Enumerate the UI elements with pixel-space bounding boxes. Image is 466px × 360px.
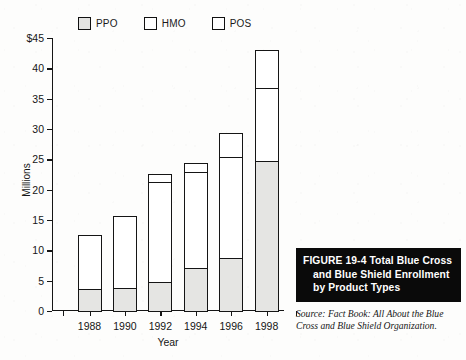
- y-tick-mark: [47, 99, 52, 100]
- x-tick-mark: [267, 311, 268, 316]
- figure-chart: PPOHMOPOS Millions 0510152025303540$45 1…: [0, 0, 300, 360]
- legend-label: HMO: [162, 18, 186, 29]
- bar-segment-ppo-1994: [184, 268, 208, 313]
- legend-label: POS: [230, 18, 252, 29]
- bar-1994[interactable]: [184, 163, 208, 311]
- bar-segment-hmo-1996: [219, 157, 243, 260]
- bar-segment-hmo-1992: [148, 182, 172, 283]
- y-tick-label: 25: [32, 153, 44, 165]
- y-tick-mark: [47, 250, 52, 251]
- y-tick-mark: [47, 159, 52, 160]
- bar-1988[interactable]: [78, 235, 102, 311]
- y-tick-label: 10: [32, 244, 44, 256]
- bar-segment-hmo-1988: [78, 235, 102, 290]
- x-tick-mark: [231, 311, 232, 316]
- plot-area: 0510152025303540$45 19881990199219941996…: [52, 38, 284, 311]
- y-tick-mark: [47, 220, 52, 221]
- x-tick-mark: [90, 311, 91, 316]
- bar-segment-ppo-1992: [148, 282, 172, 312]
- x-tick-mark: [196, 311, 197, 316]
- y-tick-mark: [47, 281, 52, 282]
- y-tick-label: 40: [32, 62, 44, 74]
- y-tick-label: 35: [32, 93, 44, 105]
- x-tick-mark-start: [63, 311, 64, 316]
- figure-caption-text: FIGURE 19-4 Total Blue Cross and Blue Sh…: [303, 254, 454, 295]
- bar-segment-hmo-1994: [184, 172, 208, 268]
- y-tick-mark: [47, 311, 52, 312]
- caption-line-2: and Blue Shield Enrollment: [303, 268, 454, 282]
- legend-swatch-hmo-icon: [144, 17, 157, 30]
- x-tick-mark: [160, 311, 161, 316]
- y-tick-label: 0: [38, 305, 44, 317]
- y-tick-label: $45: [26, 32, 44, 44]
- bar-segment-pos-1996: [219, 133, 243, 158]
- x-tick-label: 1992: [149, 320, 172, 332]
- y-tick-mark: [47, 38, 52, 39]
- bar-segment-ppo-1998: [255, 161, 279, 313]
- legend-swatch-pos-icon: [212, 17, 225, 30]
- page-background: PPOHMOPOS Millions 0510152025303540$45 1…: [0, 0, 466, 360]
- legend-item-ppo[interactable]: PPO: [78, 17, 118, 30]
- x-tick-mark: [125, 311, 126, 316]
- x-tick-label: 1998: [255, 320, 278, 332]
- y-axis-line: [52, 38, 53, 311]
- bar-1996[interactable]: [219, 133, 243, 311]
- caption-line-1: FIGURE 19-4 Total Blue Cross: [303, 254, 454, 268]
- y-tick-label: 30: [32, 123, 44, 135]
- bar-segment-ppo-1996: [219, 258, 243, 312]
- x-tick-label: 1990: [113, 320, 136, 332]
- bar-1990[interactable]: [113, 216, 137, 311]
- x-tick-label: 1994: [184, 320, 207, 332]
- y-tick-mark: [47, 68, 52, 69]
- bar-segment-hmo-1998: [255, 88, 279, 163]
- y-tick-label: 5: [38, 275, 44, 287]
- x-tick-label: 1996: [219, 320, 242, 332]
- x-axis-title: Year: [157, 336, 178, 348]
- legend-label: PPO: [96, 18, 118, 29]
- figure-caption-box: FIGURE 19-4 Total Blue Cross and Blue Sh…: [296, 248, 461, 302]
- bar-segment-hmo-1990: [113, 216, 137, 289]
- caption-line-3: by Product Types: [303, 281, 454, 295]
- y-tick-label: 20: [32, 184, 44, 196]
- bar-segment-ppo-1988: [78, 289, 102, 313]
- bar-1992[interactable]: [148, 174, 172, 311]
- chart-legend: PPOHMOPOS: [78, 11, 293, 35]
- y-tick-label: 15: [32, 214, 44, 226]
- bar-segment-pos-1998: [255, 50, 279, 89]
- y-tick-mark: [47, 190, 52, 191]
- x-tick-label: 1988: [78, 320, 101, 332]
- y-axis-title: Millions: [21, 163, 32, 196]
- figure-source-note: Source: Fact Book: All About the Blue Cr…: [296, 308, 464, 332]
- legend-swatch-ppo-icon: [78, 17, 91, 30]
- legend-item-pos[interactable]: POS: [212, 17, 252, 30]
- legend-item-hmo[interactable]: HMO: [144, 17, 186, 30]
- bar-1998[interactable]: [255, 50, 279, 311]
- bar-segment-ppo-1990: [113, 288, 137, 313]
- y-tick-mark: [47, 129, 52, 130]
